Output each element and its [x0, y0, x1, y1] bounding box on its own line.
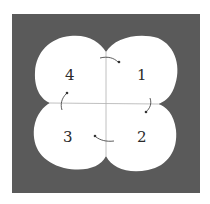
quadrant-label-2: 2 [137, 128, 147, 146]
quadrant-label-3: 3 [63, 128, 73, 146]
clover-diagram: 1 2 3 4 [0, 0, 210, 204]
quadrant-label-1: 1 [137, 66, 147, 84]
quadrant-label-4: 4 [65, 66, 75, 84]
